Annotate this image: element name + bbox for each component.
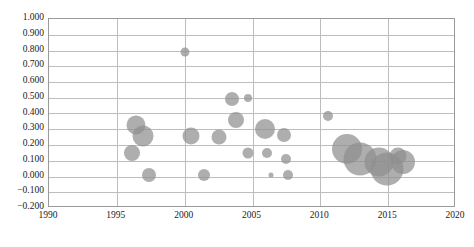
plot-area bbox=[48, 18, 455, 207]
data-point-bubble bbox=[277, 128, 291, 142]
gridline-horizontal bbox=[49, 113, 454, 114]
x-axis-tick-label: 2005 bbox=[242, 211, 261, 221]
gridline-horizontal bbox=[49, 35, 454, 36]
x-axis-tick-label: 1990 bbox=[39, 211, 58, 221]
data-point-bubble bbox=[262, 148, 272, 158]
data-point-bubble bbox=[255, 119, 275, 139]
data-point-bubble bbox=[244, 94, 252, 102]
data-point-bubble bbox=[198, 169, 210, 181]
x-axis-tick-label: 2015 bbox=[378, 211, 397, 221]
data-point-bubble bbox=[225, 92, 239, 106]
gridline-horizontal bbox=[49, 145, 454, 146]
gridline-horizontal bbox=[49, 82, 454, 83]
data-point-bubble bbox=[142, 168, 156, 182]
x-axis-tick-label: 2010 bbox=[310, 211, 329, 221]
x-axis-tick-label: 1995 bbox=[106, 211, 125, 221]
gridline-horizontal bbox=[49, 66, 454, 67]
bubble-chart: 1.0000.9000.8000.7000.6000.5000.4000.300… bbox=[0, 0, 474, 247]
data-point-bubble bbox=[243, 148, 254, 159]
gridline-vertical bbox=[253, 19, 254, 206]
data-point-bubble bbox=[283, 170, 293, 180]
data-point-bubble bbox=[180, 48, 189, 57]
data-point-bubble bbox=[281, 154, 291, 164]
x-axis-tick-label: 2000 bbox=[174, 211, 193, 221]
gridline-vertical bbox=[320, 19, 321, 206]
data-point-bubble bbox=[269, 173, 274, 178]
data-point-bubble bbox=[132, 125, 153, 146]
data-point-bubble bbox=[211, 129, 226, 144]
gridline-horizontal bbox=[49, 129, 454, 130]
data-point-bubble bbox=[183, 127, 200, 144]
data-point-bubble bbox=[228, 112, 244, 128]
x-axis-tick-label: 2020 bbox=[446, 211, 465, 221]
gridline-horizontal bbox=[49, 192, 454, 193]
data-point-bubble bbox=[124, 145, 140, 161]
data-point-bubble bbox=[323, 111, 333, 121]
gridline-horizontal bbox=[49, 51, 454, 52]
gridline-vertical bbox=[117, 19, 118, 206]
data-point-bubble bbox=[391, 150, 415, 174]
